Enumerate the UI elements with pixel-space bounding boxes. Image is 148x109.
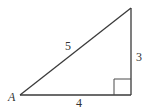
hypotenuse-length-label: 5 — [65, 39, 71, 53]
vertex-label-a: A — [7, 90, 16, 104]
vertical-leg-length-label: 3 — [136, 50, 142, 64]
right-angle-marker — [114, 79, 131, 95]
horizontal-leg-length-label: 4 — [76, 96, 82, 109]
right-triangle-diagram: A 5 3 4 — [0, 0, 148, 109]
